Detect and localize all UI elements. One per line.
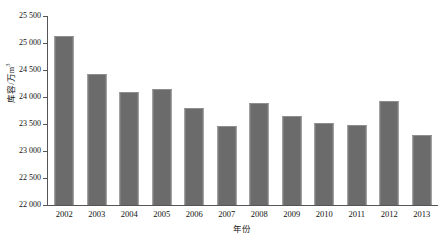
bar-slot: 2010 bbox=[308, 16, 341, 205]
bar[interactable] bbox=[87, 74, 106, 205]
bar-slot: 2009 bbox=[276, 16, 309, 205]
x-axis-tick-label: 2003 bbox=[88, 210, 105, 219]
plot-area: 22 00022 50023 00023 50024 00024 50025 0… bbox=[47, 16, 438, 206]
x-axis-tick-label: 2006 bbox=[186, 210, 203, 219]
x-axis-tick-label: 2007 bbox=[218, 210, 235, 219]
y-axis-tick-label: 25 000 bbox=[19, 39, 41, 47]
x-axis-tick-label: 2008 bbox=[251, 210, 268, 219]
x-axis-tick-label: 2009 bbox=[283, 210, 300, 219]
bar-slot: 2003 bbox=[81, 16, 114, 205]
x-axis-tick-label: 2011 bbox=[348, 210, 365, 219]
bar-chart-figure: 库容/万m3 22 00022 50023 00023 50024 00024 … bbox=[0, 0, 447, 244]
y-axis-tick-label: 22 000 bbox=[19, 201, 41, 209]
y-axis-title-exponent: 3 bbox=[4, 64, 11, 67]
bar-slot: 2004 bbox=[113, 16, 146, 205]
x-axis-tick-label: 2010 bbox=[316, 210, 333, 219]
x-axis-tick-label: 2013 bbox=[413, 210, 430, 219]
x-axis-title: 年份 bbox=[47, 225, 437, 234]
y-axis-title-text: 库容/万m bbox=[6, 67, 16, 103]
bar[interactable] bbox=[380, 101, 399, 205]
x-axis-tick-label: 2005 bbox=[153, 210, 170, 219]
bar-slot: 2007 bbox=[211, 16, 244, 205]
y-axis-tick-label: 24 500 bbox=[19, 66, 41, 74]
bar-slot: 2008 bbox=[243, 16, 276, 205]
bar-slot: 2011 bbox=[341, 16, 374, 205]
bar[interactable] bbox=[217, 126, 236, 205]
y-axis-tick-label: 24 000 bbox=[19, 93, 41, 101]
bar-series: 2002200320042005200620072008200920102011… bbox=[48, 16, 438, 205]
bar[interactable] bbox=[412, 135, 431, 205]
bar-slot: 2002 bbox=[48, 16, 81, 205]
bar[interactable] bbox=[315, 123, 334, 205]
bar[interactable] bbox=[55, 36, 74, 205]
x-axis-tick-label: 2002 bbox=[56, 210, 73, 219]
y-axis-tick-label: 22 500 bbox=[19, 174, 41, 182]
x-axis-tick-label: 2012 bbox=[381, 210, 398, 219]
y-axis-tick-label: 23 000 bbox=[19, 147, 41, 155]
bar[interactable] bbox=[282, 116, 301, 205]
bar[interactable] bbox=[185, 108, 204, 205]
bar-slot: 2006 bbox=[178, 16, 211, 205]
x-axis-tick-label: 2004 bbox=[121, 210, 138, 219]
bar-slot: 2013 bbox=[406, 16, 439, 205]
bar-slot: 2005 bbox=[146, 16, 179, 205]
y-axis-tick-label: 23 500 bbox=[19, 120, 41, 128]
y-axis-tick-label: 25 500 bbox=[19, 12, 41, 20]
bar-slot: 2012 bbox=[373, 16, 406, 205]
bar[interactable] bbox=[347, 125, 366, 205]
bar[interactable] bbox=[250, 103, 269, 205]
y-axis-tick bbox=[43, 205, 48, 206]
y-axis-title: 库容/万m3 bbox=[5, 47, 15, 119]
bar[interactable] bbox=[120, 92, 139, 205]
bar[interactable] bbox=[152, 89, 171, 205]
